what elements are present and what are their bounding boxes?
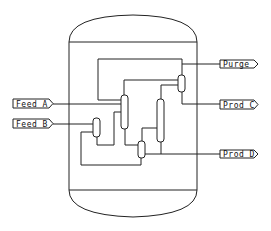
column-1-bottoms [125,129,138,145]
feed-b-label: Feed B [16,120,48,129]
boundary-vessel [69,15,197,217]
prod-c-label: Prod C [223,101,255,110]
top-dome [69,15,197,42]
equipment [93,75,185,158]
outlet-purge[interactable]: Purge [220,60,258,69]
drum-bottom-to-column-2 [142,128,157,141]
bottom-recycle [81,132,141,165]
inlet-feed-b[interactable]: Feed B [13,119,53,129]
separator-top[interactable] [178,75,185,92]
prod-c-line [182,92,220,104]
process-flow-diagram: Feed A Feed B Purge Prod C Prod D [0,0,271,231]
prod-d-label: Prod D [223,150,255,159]
outlet-prod-c[interactable]: Prod C [220,100,258,110]
inlet-feed-a[interactable]: Feed A [13,99,53,109]
column-2-overhead [161,85,178,99]
bottom-dome [69,190,197,217]
prod-d-line [161,142,220,154]
drum-bottom[interactable] [138,141,145,158]
feed-a-label: Feed A [16,100,48,109]
drum-b-to-column-1 [97,112,121,145]
outlet-prod-d[interactable]: Prod D [220,150,258,159]
piping [53,59,220,165]
column-2[interactable] [157,99,164,142]
purge-label: Purge [223,60,250,69]
drum-feed-b[interactable] [93,118,100,137]
column-1-overhead [124,80,178,95]
column-1[interactable] [121,95,128,129]
